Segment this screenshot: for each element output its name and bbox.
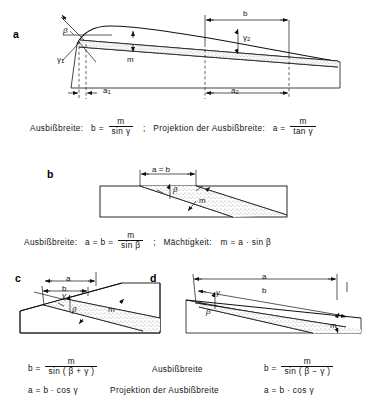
figure-canvas: a b c d β γ1 m b γ2 a1 a2 Ausbißbreite: … bbox=[0, 0, 381, 416]
bottom-formula-center-row2: Projektion der Ausbißbreite bbox=[110, 385, 219, 395]
panel-b-formula-num: m bbox=[118, 231, 143, 240]
panel-c-label-beta: β bbox=[72, 305, 77, 314]
panel-d-label-b: b bbox=[262, 286, 266, 295]
panel-a-formula-term-left: Ausbißbreite: bbox=[30, 123, 83, 133]
panel-letter-d: d bbox=[150, 272, 156, 284]
panel-letter-c: c bbox=[15, 272, 21, 284]
panel-a-label-a1-sub: 1 bbox=[107, 89, 110, 95]
bottom-formula-left-frac: m sin ( β + γ ) bbox=[45, 357, 97, 376]
bottom-formula-left-lhs: b = bbox=[28, 363, 41, 373]
panel-c-label-a: a bbox=[66, 274, 70, 283]
panel-b-formula-rhs: m = a · sin β bbox=[221, 237, 272, 247]
panel-b-label-beta: β bbox=[173, 185, 178, 194]
panel-letter-b: b bbox=[47, 168, 53, 180]
panel-b-formula-separator: ; bbox=[153, 237, 156, 247]
panel-b-formula-den: sin β bbox=[118, 240, 143, 250]
bottom-formula-left-row2: a = b · cos γ bbox=[28, 385, 78, 395]
panel-letter-a: a bbox=[13, 28, 19, 40]
bottom-formula-left-row1: b = m sin ( β + γ ) bbox=[28, 358, 99, 377]
panel-b-formula-frac: m sin β bbox=[118, 231, 143, 250]
panel-b-formula-lhs: a = b = bbox=[85, 237, 113, 247]
panel-c-label-gamma: γ bbox=[62, 291, 66, 300]
panel-a-label-gamma1-sub: 1 bbox=[61, 58, 64, 64]
panel-b-formula-term-right: Mächtigkeit: bbox=[163, 237, 211, 247]
bottom-formula-right-row1: b = m sin ( β − γ ) bbox=[264, 358, 335, 377]
panel-b-label-m: m bbox=[199, 196, 206, 205]
panel-a-label-a2-sub: 2 bbox=[235, 89, 238, 95]
panel-c-block bbox=[20, 283, 160, 333]
bottom-formula-right-row2: a = b · cos γ bbox=[264, 385, 314, 395]
panel-d-label-beta: β bbox=[206, 307, 211, 316]
panel-a-formula-frac-right: m tan γ bbox=[290, 117, 316, 136]
bottom-formula-right-frac: m sin ( β − γ ) bbox=[281, 357, 333, 376]
panel-a-label-m: m bbox=[127, 55, 134, 64]
panel-a-formula-num-left: m bbox=[109, 117, 134, 126]
panel-a-label-beta: β bbox=[63, 26, 68, 35]
panel-a-formula-den-right: tan γ bbox=[290, 126, 316, 136]
panel-b-block bbox=[100, 186, 287, 217]
bottom-formula-left-den: sin ( β + γ ) bbox=[45, 366, 97, 376]
panel-b-formula: Ausbißbreite: a = b = m sin β ; Mächtigk… bbox=[24, 232, 271, 251]
bottom-formula-center-row1: Ausbißbreite bbox=[152, 364, 203, 374]
panel-a-formula-separator: ; bbox=[143, 123, 146, 133]
bottom-formula-left-num: m bbox=[45, 357, 97, 366]
panel-d-label-gamma: γ bbox=[216, 288, 220, 297]
bottom-formula-right-den: sin ( β − γ ) bbox=[281, 366, 333, 376]
panel-a-formula-lhs-left: b = bbox=[91, 123, 104, 133]
panel-a-formula-term-right: Projektion der Ausbißbreite: bbox=[153, 123, 265, 133]
panel-a-formula-den-left: sin γ bbox=[109, 126, 134, 136]
panel-d-label-a: a bbox=[262, 272, 266, 281]
bottom-formula-right-num: m bbox=[281, 357, 333, 366]
panel-b-formula-term-left: Ausbißbreite: bbox=[24, 237, 77, 247]
bottom-formula-right-lhs: b = bbox=[264, 363, 277, 373]
panel-b-label-ab: a = b bbox=[152, 165, 170, 174]
panel-a-formula-num-right: m bbox=[290, 117, 316, 126]
panel-a-formula-lhs-right: a = bbox=[273, 123, 286, 133]
panel-a-formula-frac-left: m sin γ bbox=[109, 117, 134, 136]
panel-d-label-m: m bbox=[330, 321, 337, 330]
panel-a-proj-a1 bbox=[79, 41, 86, 99]
panel-a-angles bbox=[61, 15, 112, 62]
panel-c-label-m: m bbox=[108, 305, 115, 314]
panel-a-label-gamma2-sub: 2 bbox=[247, 36, 250, 42]
panel-a-formula: Ausbißbreite: b = m sin γ ; Projektion d… bbox=[30, 118, 318, 137]
panel-a-label-b: b bbox=[243, 9, 247, 18]
panel-a-gamma2 bbox=[236, 29, 238, 54]
